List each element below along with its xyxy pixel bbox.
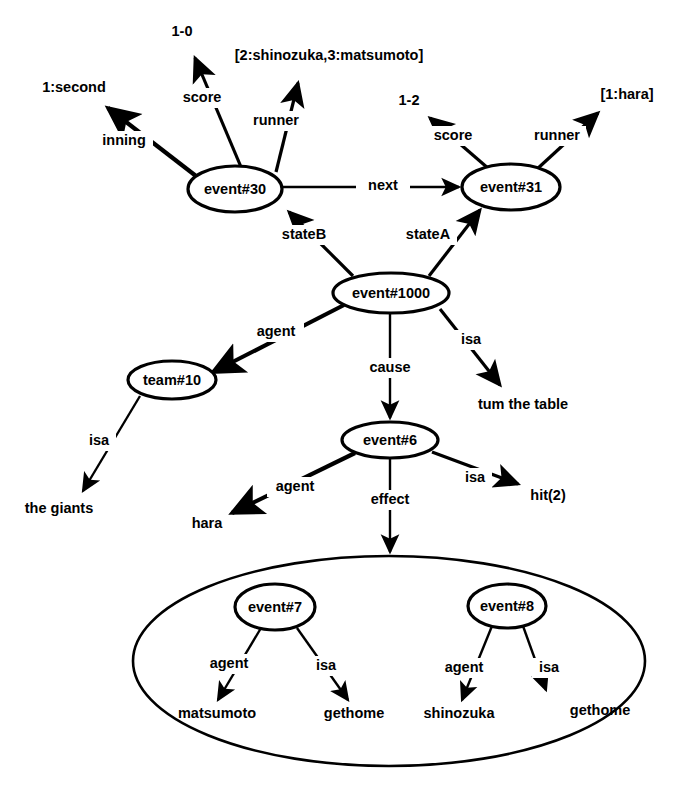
- edge-label-next: next: [360, 176, 406, 196]
- node-label-event1000: event#1000: [352, 285, 430, 301]
- svg-text:score: score: [434, 127, 473, 143]
- leaf-runner-event31-value: [1:hara]: [600, 86, 653, 102]
- edge-label-runner-event30: runner: [247, 111, 305, 131]
- edge-label-score-event30: score: [177, 88, 228, 108]
- svg-text:stateA: stateA: [406, 226, 451, 242]
- semantic-network-diagram: event#30 event#31 event#1000 team#10 eve…: [0, 0, 687, 788]
- node-label-event31: event#31: [480, 179, 542, 195]
- leaf-shinozuka: shinozuka: [424, 705, 496, 721]
- edge-label-isa-event1000: isa: [454, 330, 488, 350]
- edge-score-event30: [195, 58, 241, 167]
- svg-text:agent: agent: [257, 323, 296, 339]
- leaf-score-event30-value: 1-0: [172, 23, 193, 39]
- leaf-gethome-right: gethome: [570, 702, 630, 718]
- edge-label-score-event31: score: [428, 126, 479, 146]
- edge-label-cause: cause: [362, 358, 418, 378]
- svg-text:agent: agent: [276, 478, 315, 494]
- svg-text:isa: isa: [461, 331, 482, 347]
- node-label-event8: event#8: [480, 598, 534, 614]
- leaf-gethome-left: gethome: [324, 705, 384, 721]
- svg-text:runner: runner: [253, 112, 299, 128]
- leaf-score-event31-value: 1-2: [399, 92, 420, 108]
- edge-label-isa-team10: isa: [82, 431, 116, 451]
- edge-label-effect: effect: [364, 490, 416, 510]
- leaf-the-giants: the giants: [25, 500, 93, 516]
- leaf-hara: hara: [192, 515, 224, 531]
- svg-text:cause: cause: [369, 359, 410, 375]
- edge-label-stateA: stateA: [399, 225, 457, 245]
- svg-text:isa: isa: [89, 432, 110, 448]
- edge-label-agent-team10: agent: [248, 322, 304, 342]
- edge-label-inning: inning: [96, 131, 153, 151]
- svg-text:effect: effect: [371, 491, 410, 507]
- node-label-event30: event#30: [204, 181, 266, 197]
- svg-text:score: score: [183, 89, 222, 105]
- svg-text:agent: agent: [445, 659, 484, 675]
- leaf-inning-value: 1:second: [42, 79, 106, 95]
- diagram-canvas: event#30 event#31 event#1000 team#10 eve…: [0, 0, 687, 788]
- leaf-runner-event30-value: [2:shinozuka,3:matsumoto]: [235, 47, 424, 63]
- svg-text:inning: inning: [102, 132, 146, 148]
- edge-label-agent-event6: agent: [267, 477, 323, 497]
- svg-text:agent: agent: [210, 655, 249, 671]
- edge-label-stateB: stateB: [275, 225, 333, 245]
- node-label-event7: event#7: [248, 599, 302, 615]
- edge-label-agent-event7: agent: [201, 654, 257, 674]
- svg-text:isa: isa: [465, 469, 486, 485]
- svg-text:next: next: [368, 177, 398, 193]
- edge-label-runner-event31: runner: [528, 126, 586, 146]
- svg-text:isa: isa: [539, 659, 560, 675]
- svg-text:stateB: stateB: [282, 226, 326, 242]
- svg-text:runner: runner: [534, 127, 580, 143]
- edge-label-agent-event8: agent: [436, 658, 492, 678]
- svg-text:isa: isa: [316, 657, 337, 673]
- leaf-hit2: hit(2): [530, 487, 566, 503]
- leaf-turn-the-table: tum the table: [478, 396, 568, 412]
- node-label-event6: event#6: [363, 432, 417, 448]
- edge-label-isa-event7: isa: [309, 656, 343, 676]
- leaf-matsumoto: matsumoto: [178, 705, 256, 721]
- node-label-team10: team#10: [143, 372, 201, 388]
- edge-label-isa-event6: isa: [458, 468, 492, 488]
- edge-label-isa-event8: isa: [532, 658, 566, 678]
